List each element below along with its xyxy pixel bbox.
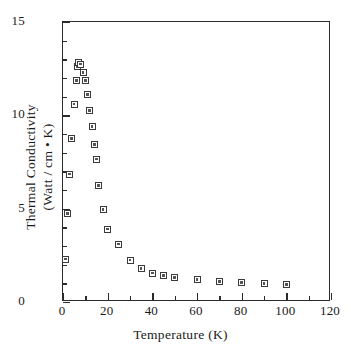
data-point	[84, 91, 91, 98]
data-point	[91, 141, 98, 148]
y-axis-tick	[63, 22, 70, 23]
x-axis-tick-label: 100	[262, 304, 308, 317]
y-axis-tick	[63, 190, 67, 191]
data-point	[149, 270, 156, 277]
x-axis-tick-label: 0	[39, 304, 85, 317]
data-point	[238, 279, 245, 286]
data-point	[80, 69, 87, 76]
plot-area	[62, 21, 330, 301]
data-point	[95, 182, 102, 189]
y-axis-tick-label: 5	[0, 201, 25, 214]
y-axis-tick-label: 15	[0, 14, 25, 27]
y-axis-tick	[63, 153, 67, 154]
x-axis-tick	[63, 293, 64, 300]
data-point	[216, 278, 223, 285]
x-axis-tick	[130, 296, 131, 300]
y-axis-title-line2: (Watt / cm • K)	[39, 67, 56, 267]
y-axis-tick-label: 0	[0, 294, 25, 307]
x-axis-tick-label: 80	[218, 304, 264, 317]
x-axis-tick	[242, 293, 243, 300]
x-axis-tick	[286, 293, 287, 300]
y-axis-tick	[63, 227, 67, 228]
data-point	[93, 156, 100, 163]
data-point	[127, 257, 134, 264]
y-axis-tick	[63, 78, 67, 79]
x-axis-tick	[85, 296, 86, 300]
x-axis-title: Temperature (K)	[0, 327, 361, 343]
data-point	[68, 135, 75, 142]
y-axis-tick	[63, 134, 67, 135]
y-axis-tick-label: 10	[0, 107, 25, 120]
x-axis-tick	[197, 293, 198, 300]
data-point	[104, 226, 111, 233]
y-axis-tick	[63, 265, 67, 266]
data-point	[86, 107, 93, 114]
data-point	[261, 280, 268, 287]
data-point	[115, 241, 122, 248]
x-axis-tick	[175, 296, 176, 300]
data-point	[71, 101, 78, 108]
data-point	[160, 272, 167, 279]
x-axis-tick	[309, 296, 310, 300]
y-axis-tick	[63, 246, 67, 247]
thermal-conductivity-figure: Thermal Conductivity (Watt / cm • K) Tem…	[0, 0, 361, 358]
x-axis-tick	[331, 293, 332, 300]
data-point	[89, 123, 96, 130]
x-axis-tick	[264, 296, 265, 300]
x-axis-tick-label: 40	[128, 304, 174, 317]
data-point	[64, 210, 71, 217]
data-point	[100, 206, 107, 213]
y-axis-title-line1: Thermal Conductivity	[23, 104, 38, 230]
data-point	[77, 61, 84, 68]
x-axis-tick-label: 60	[173, 304, 219, 317]
y-axis-tick	[63, 59, 67, 60]
data-point	[66, 171, 73, 178]
data-point	[82, 77, 89, 84]
y-axis-tick	[63, 41, 67, 42]
x-axis-tick-label: 120	[307, 304, 353, 317]
data-point	[171, 274, 178, 281]
y-axis-title: Thermal Conductivity (Watt / cm • K)	[22, 67, 56, 267]
x-axis-tick	[152, 293, 153, 300]
x-axis-tick	[108, 293, 109, 300]
data-point	[283, 281, 290, 288]
x-axis-tick-label: 20	[84, 304, 130, 317]
y-axis-tick	[63, 283, 67, 284]
x-axis-tick	[219, 296, 220, 300]
data-point	[62, 256, 69, 263]
y-axis-tick	[63, 97, 67, 98]
y-axis-tick	[63, 115, 70, 116]
data-point	[73, 77, 80, 84]
data-point	[138, 265, 145, 272]
data-point	[194, 276, 201, 283]
